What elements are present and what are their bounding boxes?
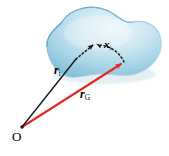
label-r-G-subscript: G [85,93,90,102]
label-x-i-subscript: i [110,44,112,51]
vector-diagram-figure: ri rG xi O [0,0,169,156]
label-vector-r-G: rG [80,88,90,101]
diagram-canvas [0,0,169,156]
label-r-i-subscript: i [59,69,61,78]
label-vector-r-i: ri [54,64,61,77]
label-origin: O [12,130,21,143]
label-vector-x-i: xi [104,39,111,52]
label-origin-symbol: O [12,129,21,144]
